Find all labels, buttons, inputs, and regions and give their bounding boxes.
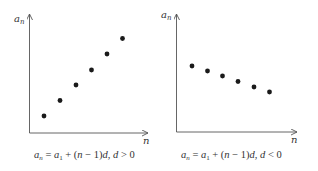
data-point xyxy=(190,64,195,69)
data-point xyxy=(58,98,63,103)
data-point xyxy=(74,83,79,88)
data-point xyxy=(120,36,125,41)
left-points xyxy=(42,36,125,118)
left-caption: an = a1 + (n − 1)d, d > 0 xyxy=(34,149,135,162)
data-point xyxy=(220,74,225,79)
data-point xyxy=(267,90,272,95)
data-point xyxy=(105,52,110,57)
data-point xyxy=(236,79,241,84)
left-x-label: n xyxy=(143,135,149,146)
left-plot: an n an = a1 + (n − 1)d, d > 0 xyxy=(14,13,149,162)
data-point xyxy=(42,114,47,119)
data-point xyxy=(252,85,257,90)
right-x-label: n xyxy=(291,134,297,145)
right-caption: an = a1 + (n − 1)d, d < 0 xyxy=(181,149,282,162)
right-y-label: an xyxy=(161,9,172,22)
data-point xyxy=(205,69,210,74)
left-y-label: an xyxy=(14,13,25,26)
data-point xyxy=(89,68,94,73)
right-plot: an n an = a1 + (n − 1)d, d < 0 xyxy=(161,9,297,162)
right-points xyxy=(190,64,272,95)
figure: an n an = a1 + (n − 1)d, d > 0 an n an =… xyxy=(0,0,318,171)
